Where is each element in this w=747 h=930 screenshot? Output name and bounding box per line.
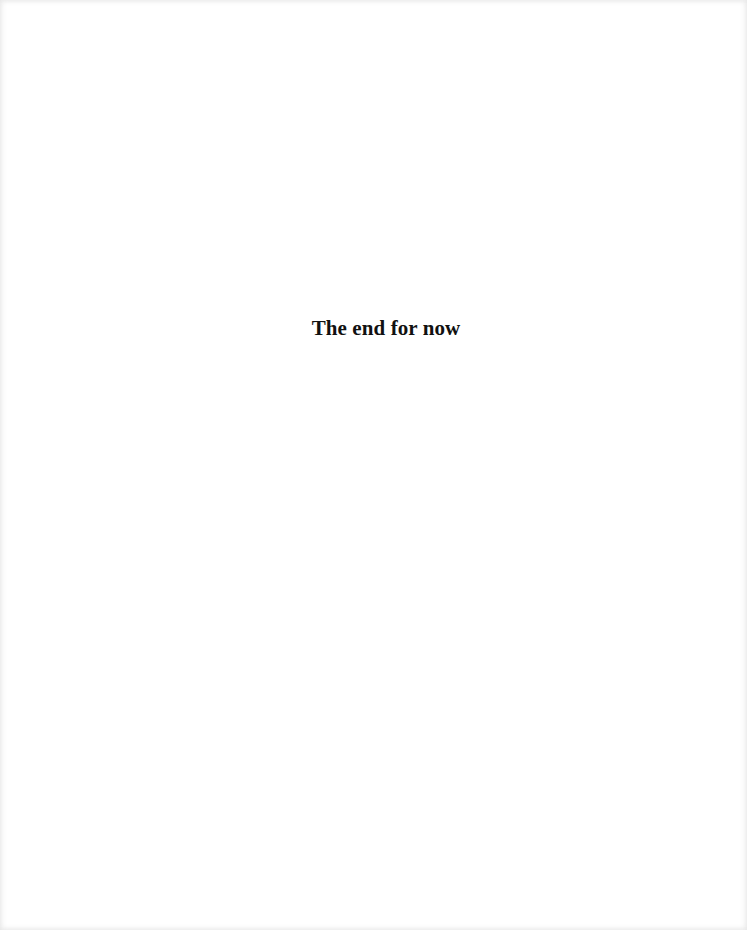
document-page: The end for now [0,0,747,930]
page-heading: The end for now [0,316,747,341]
